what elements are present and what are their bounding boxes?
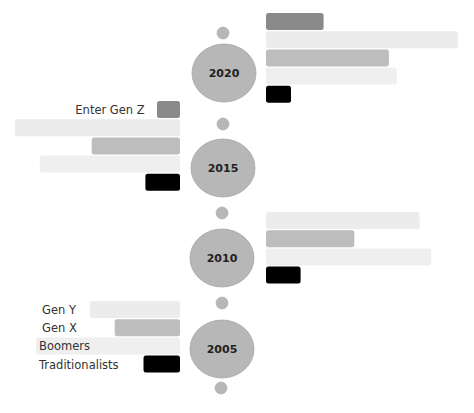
bar-2020-traditionalists [266, 86, 291, 103]
bar-2005-gen-y [90, 301, 180, 318]
bar-2010-gen-x [266, 230, 354, 247]
legend-label-gen-y: Gen Y [42, 303, 77, 317]
bar-2015-boomers [40, 156, 180, 173]
timeline-dot-4 [215, 382, 227, 394]
bar-2005-gen-x [115, 319, 180, 336]
bar-2015-gen-y [15, 119, 180, 136]
generations-timeline-chart: 2020201520102005Enter Gen ZGen YGen XBoo… [0, 0, 474, 413]
timeline-dot-0 [217, 27, 229, 39]
bar-2010-traditionalists [266, 267, 301, 284]
annotation-enter-gen-z: Enter Gen Z [75, 103, 144, 117]
bar-2010-gen-y [266, 212, 420, 229]
year-label-2020: 2020 [209, 67, 240, 80]
legend-label-gen-x: Gen X [42, 321, 77, 335]
timeline-dot-3 [216, 297, 228, 309]
bar-2015-gen-x [92, 137, 180, 154]
bar-2020-boomers [266, 68, 397, 85]
bar-2020-gen-y [266, 31, 458, 48]
year-label-2015: 2015 [208, 162, 239, 175]
bar-2010-boomers [266, 248, 431, 265]
bar-2020-gen-x [266, 49, 389, 66]
year-label-2005: 2005 [207, 343, 238, 356]
bar-2005-traditionalists [144, 356, 181, 373]
bar-2015-gen-z [157, 101, 180, 118]
bar-2015-traditionalists [145, 174, 180, 191]
bar-2020-gen-z [266, 13, 324, 30]
legend-label-boomers: Boomers [39, 339, 90, 353]
legend-label-traditionalists: Traditionalists [38, 358, 119, 372]
timeline-dot-1 [217, 118, 229, 130]
timeline-dot-2 [216, 207, 228, 219]
year-label-2010: 2010 [207, 252, 238, 265]
